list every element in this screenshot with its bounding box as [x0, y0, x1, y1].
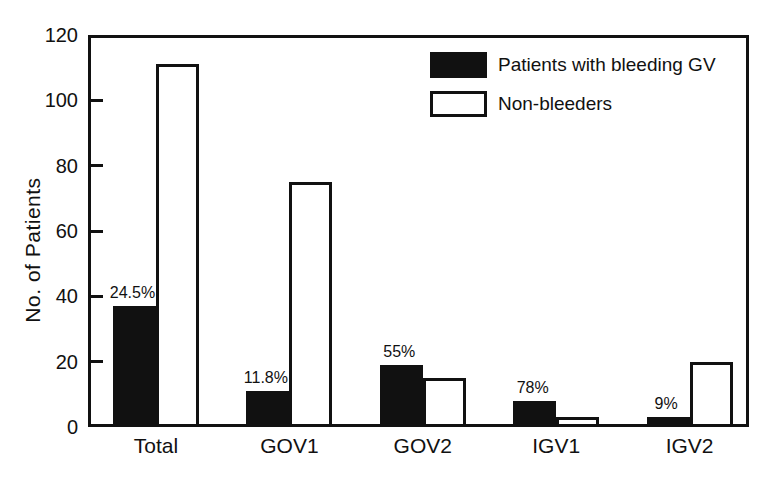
bar-bleeding-gov2	[380, 365, 423, 427]
bar-nonbleeders-igv2	[690, 362, 733, 427]
y-tick-label: 40	[18, 285, 78, 308]
x-category-label-total: Total	[134, 434, 178, 458]
y-tick-mark	[89, 99, 103, 102]
y-tick-mark	[89, 295, 103, 298]
bar-chart-figure: No. of Patients Patients with bleeding G…	[0, 0, 771, 477]
bar-nonbleeders-total	[156, 64, 199, 427]
y-tick-label: 0	[18, 416, 78, 439]
y-tick-mark	[89, 360, 103, 363]
x-category-label-gov2: GOV2	[394, 434, 452, 458]
y-tick-label: 20	[18, 350, 78, 373]
bar-nonbleeders-igv1	[556, 417, 599, 427]
x-category-label-igv2: IGV2	[666, 434, 714, 458]
legend: Patients with bleeding GV Non-bleeders	[430, 52, 716, 130]
legend-item-bleeders: Patients with bleeding GV	[430, 52, 716, 78]
y-tick-label: 80	[18, 154, 78, 177]
bleeding-percentage-label: 11.8%	[244, 369, 288, 387]
y-tick-label: 120	[18, 24, 78, 47]
y-tick-mark	[89, 230, 103, 233]
bleeding-percentage-label: 78%	[517, 379, 549, 397]
y-tick-label: 100	[18, 89, 78, 112]
bar-bleeding-total	[113, 306, 156, 427]
bar-bleeding-igv2	[647, 417, 690, 427]
legend-swatch-non-bleeders	[430, 91, 487, 117]
legend-item-non-bleeders: Non-bleeders	[430, 91, 716, 117]
bar-bleeding-gov1	[246, 391, 289, 427]
legend-label-non-bleeders: Non-bleeders	[498, 93, 612, 115]
x-category-label-gov1: GOV1	[260, 434, 318, 458]
bar-bleeding-igv1	[513, 401, 556, 427]
legend-swatch-bleeders	[430, 52, 487, 78]
bleeding-percentage-label: 24.5%	[110, 284, 155, 302]
bar-nonbleeders-gov2	[423, 378, 466, 427]
y-tick-label: 60	[18, 220, 78, 243]
legend-label-bleeders: Patients with bleeding GV	[498, 54, 716, 76]
bar-nonbleeders-gov1	[289, 182, 332, 427]
bleeding-percentage-label: 55%	[383, 343, 415, 361]
bleeding-percentage-label: 9%	[655, 395, 678, 413]
x-category-label-igv1: IGV1	[532, 434, 580, 458]
y-tick-mark	[89, 164, 103, 167]
